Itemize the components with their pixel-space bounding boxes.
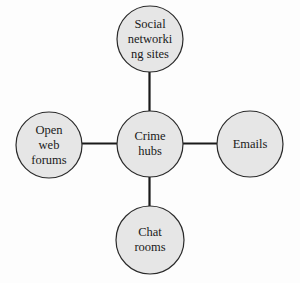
- label-crime-hubs: Crime hubs: [117, 111, 183, 177]
- label-chat-rooms: Chat rooms: [116, 206, 184, 274]
- label-emails: Emails: [217, 111, 283, 177]
- diagram-canvas: Social networki ng sites Open web forums…: [0, 0, 300, 283]
- label-open-web-forums: Open web forums: [16, 112, 82, 178]
- label-social-networking-sites: Social networki ng sites: [117, 6, 183, 72]
